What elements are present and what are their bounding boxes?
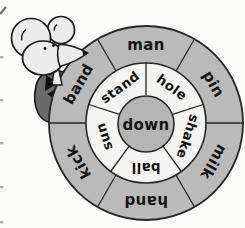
- wheel-word-man: man: [127, 36, 165, 54]
- mouse-eye-right: [52, 44, 55, 47]
- wheel-word-hand: hand: [124, 192, 168, 210]
- edge-mark: [0, 142, 4, 144]
- edge-mark: [0, 99, 4, 101]
- edge-mark: [0, 56, 4, 58]
- word-wheel-scene: man pin milk hand kick band stand hole s…: [0, 0, 245, 228]
- mouse-ear-right: [48, 17, 75, 44]
- edge-mark: [0, 221, 4, 223]
- mouse-eye-left: [44, 47, 47, 50]
- page-edge-marks: [0, 7, 6, 223]
- edge-mark: [0, 186, 4, 188]
- wheel-word-ball: ball: [131, 160, 160, 175]
- wheel-word-down: down: [122, 116, 169, 134]
- worksheet-illustration: man pin milk hand kick band stand hole s…: [0, 0, 245, 228]
- edge-mark: [0, 7, 6, 14]
